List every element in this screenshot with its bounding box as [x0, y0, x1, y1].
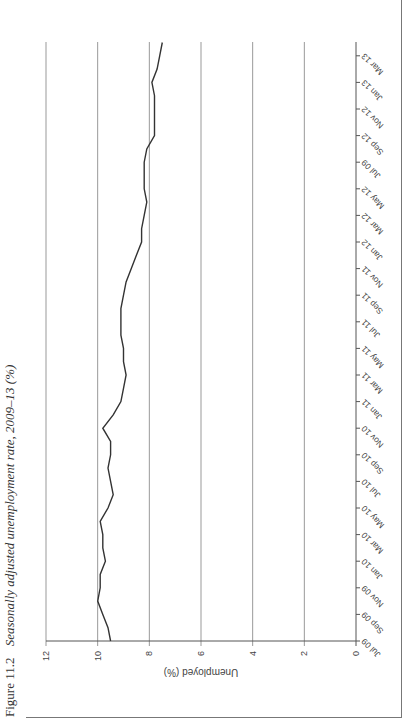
x-tick-label: Jan 13 — [359, 78, 384, 103]
x-tick-label: Mar 10 — [359, 530, 385, 556]
y-tick-label: 10 — [93, 651, 103, 661]
figure: Figure 11.2 Seasonally adjusted unemploy… — [0, 0, 407, 723]
x-tick-label: Jul 09 — [359, 158, 382, 181]
x-tick-label: Jan 11 — [359, 397, 384, 422]
y-axis-label: Unemployed (%) — [164, 667, 238, 678]
x-tick-label: May 12 — [359, 184, 386, 211]
gridlines — [46, 42, 356, 646]
x-tick-label: Jan 12 — [359, 237, 384, 262]
x-tick-label: Jul 11 — [359, 317, 382, 340]
x-tick-label: Jan 10 — [359, 557, 384, 582]
y-tick-label: 2 — [299, 651, 309, 656]
y-tick-label: 8 — [144, 651, 154, 656]
x-tick-label: Mar 13 — [359, 51, 385, 77]
x-tick-label: Jul 10 — [359, 477, 382, 500]
x-tick-label: May 10 — [359, 503, 386, 530]
x-tick-label: Sep 10 — [359, 450, 385, 476]
x-tick-label: Nov 11 — [359, 264, 385, 290]
x-tick-label: Sep 09 — [359, 610, 385, 636]
x-tick-label: Sep 11 — [359, 291, 385, 317]
x-tick-label: Nov 10 — [359, 424, 385, 450]
x-tick-label: May 11 — [359, 344, 386, 371]
y-tick-label: 12 — [41, 651, 51, 661]
x-tick-label: Mar 11 — [359, 370, 385, 396]
x-tick-label: Mar 12 — [359, 211, 385, 237]
x-tick-label: Nov 12 — [359, 104, 385, 130]
unemployment-line — [98, 43, 163, 642]
x-tick-label: Nov 09 — [359, 583, 385, 609]
x-tick-label: Sep 12 — [359, 131, 385, 157]
y-tick-label: 4 — [248, 651, 258, 656]
y-tick-label: 0 — [351, 651, 361, 656]
x-tick-label: Jul 09 — [359, 636, 382, 659]
x-axis: Jul 09Sep 09Nov 09Jan 10Mar 10May 10Jul … — [356, 51, 386, 659]
line-chart: 024681012 Jul 09Sep 09Nov 09Jan 10Mar 10… — [0, 0, 407, 723]
y-tick-label: 6 — [196, 651, 206, 656]
